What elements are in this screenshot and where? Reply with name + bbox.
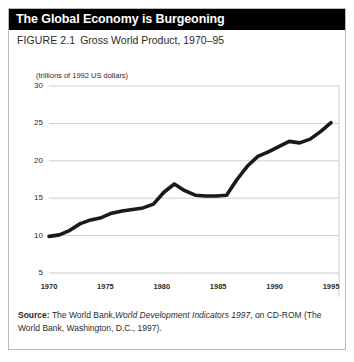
page-title: The Global Economy is Burgeoning <box>16 12 225 26</box>
x-axis-tick-1980: 1980 <box>147 282 177 291</box>
chart-svg <box>9 9 347 351</box>
figure-title-bar: The Global Economy is Burgeoning <box>9 9 345 30</box>
x-axis-tick-1990: 1990 <box>260 282 290 291</box>
x-axis-tick-1985: 1985 <box>203 282 233 291</box>
chart-gridlines <box>49 86 339 273</box>
source-text-part-1: The World Bank, <box>52 310 115 320</box>
figure-caption: FIGURE 2.1Gross World Product, 1970–95 <box>17 34 224 46</box>
x-axis-tick-1975: 1975 <box>90 282 120 291</box>
chart-plot-area: 51015202530 197019751980198519901995 <box>9 9 347 351</box>
y-axis-units-label: (trillions of 1992 US dollars) <box>36 71 128 80</box>
source-publication-title: World Development Indicators 1997 <box>115 310 250 320</box>
figure-caption-title: Gross World Product, 1970–95 <box>80 34 224 46</box>
y-axis-tick-5: 5 <box>27 268 43 277</box>
figure-container: The Global Economy is Burgeoning FIGURE … <box>8 8 346 350</box>
y-axis-tick-15: 15 <box>27 193 43 202</box>
y-axis-tick-20: 20 <box>27 156 43 165</box>
source-label: Source: <box>18 310 50 320</box>
y-axis-tick-30: 30 <box>27 81 43 90</box>
y-axis-tick-10: 10 <box>27 231 43 240</box>
x-axis-tick-1970: 1970 <box>34 282 64 291</box>
source-note: Source: The World Bank,World Development… <box>18 309 338 334</box>
y-axis-tick-25: 25 <box>27 118 43 127</box>
figure-number: FIGURE 2.1 <box>17 34 75 46</box>
chart-line-series-gross-world-product <box>49 123 331 237</box>
x-axis-tick-1995: 1995 <box>316 282 346 291</box>
